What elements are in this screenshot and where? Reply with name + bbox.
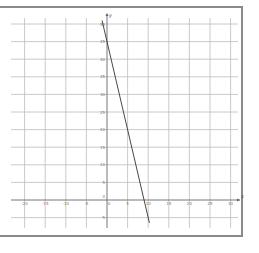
data-line <box>102 20 149 222</box>
x-tick-label: 0 <box>108 201 111 206</box>
x-tick-label: -5 <box>84 201 88 206</box>
x-tick-label: 20 <box>187 201 193 206</box>
x-tick-label: -10 <box>63 201 70 206</box>
y-tick-label: 35 <box>100 74 106 79</box>
x-tick-label: 25 <box>207 201 213 206</box>
x-tick-label: -20 <box>21 201 28 206</box>
y-axis-label: y <box>108 12 113 19</box>
y-tick-label: 30 <box>100 92 106 97</box>
y-tick-label: 20 <box>100 127 106 132</box>
y-tick-label: 40 <box>100 57 106 62</box>
x-tick-label: 5 <box>126 201 129 206</box>
x-tick-label: 10 <box>146 201 152 206</box>
y-tick-label: 25 <box>100 110 106 115</box>
line-chart: -20-15-10-5051015202530-5051015202530354… <box>0 0 259 253</box>
y-tick-label: -5 <box>101 215 105 220</box>
x-tick-label: -15 <box>42 201 49 206</box>
x-tick-label: 15 <box>166 201 172 206</box>
x-tick-label: 30 <box>228 201 234 206</box>
y-tick-label: 15 <box>100 145 106 150</box>
x-axis-arrow-icon <box>237 199 240 202</box>
y-tick-label: 0 <box>102 194 105 199</box>
y-tick-label: 45 <box>100 39 106 44</box>
y-tick-label: 10 <box>100 162 106 167</box>
x-axis-label: x <box>240 193 244 199</box>
